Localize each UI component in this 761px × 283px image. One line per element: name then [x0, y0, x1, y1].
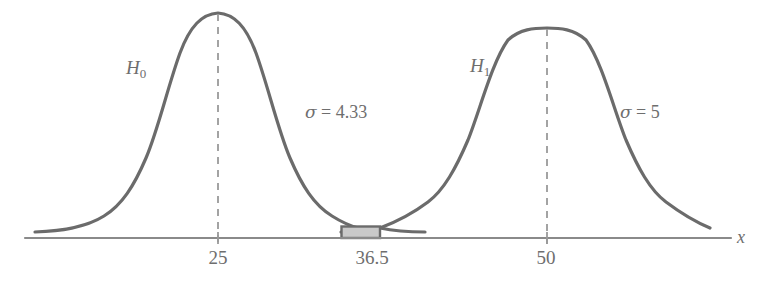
- h0-curve-label: H0: [126, 58, 146, 80]
- distribution-plot-svg: [0, 0, 761, 283]
- h1-curve-label: H1: [470, 56, 490, 78]
- h1-sigma-value: = 5: [636, 102, 660, 122]
- normal-distributions-figure: H0 H1 σ = 4.33 σ = 5 25 36.5 50 x: [0, 0, 761, 283]
- tick-label-50: 50: [537, 248, 556, 267]
- h0-right-tail: [380, 228, 425, 232]
- critical-region-shade: [342, 227, 381, 239]
- h1-sigma-annotation: σ = 5: [620, 103, 660, 121]
- h1-label-subscript: 1: [484, 64, 491, 79]
- h0-sigma-annotation: σ = 4.33: [305, 103, 367, 121]
- tick-label-25: 25: [209, 248, 228, 267]
- h0-label-letter: H: [126, 57, 140, 78]
- h1-curve: [380, 28, 710, 228]
- h0-sigma-value: = 4.33: [321, 102, 367, 122]
- h0-curve: [35, 13, 380, 232]
- h1-label-letter: H: [470, 55, 484, 76]
- tick-label-36-5: 36.5: [355, 248, 388, 267]
- sigma-symbol: σ: [305, 102, 317, 122]
- sigma-symbol: σ: [620, 102, 632, 122]
- x-axis-label: x: [737, 228, 745, 246]
- h0-label-subscript: 0: [140, 66, 147, 81]
